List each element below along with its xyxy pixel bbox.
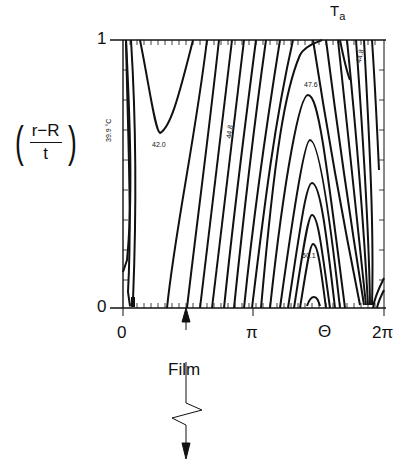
film-label: Film: [168, 360, 200, 380]
x-tick-pi: π: [246, 323, 258, 343]
film-arrow: [172, 308, 202, 459]
x-tick-0: 0: [117, 323, 126, 343]
y-tick-1: 1: [97, 29, 106, 49]
contour-label-39-9: 39.9 °C: [105, 119, 112, 142]
contour-label-42-0: 42.0: [152, 141, 166, 148]
contour-plot: [0, 0, 412, 475]
contour-lines: [123, 40, 384, 308]
x-tick-2pi: 2π: [372, 323, 393, 343]
contour-blob: [131, 297, 135, 307]
x-axis-label-theta: Θ: [318, 322, 331, 342]
y-tick-0: 0: [97, 297, 106, 317]
contour-label-47-6: 47.6: [304, 81, 318, 88]
contour-label-50-1: 50.1: [302, 252, 316, 259]
